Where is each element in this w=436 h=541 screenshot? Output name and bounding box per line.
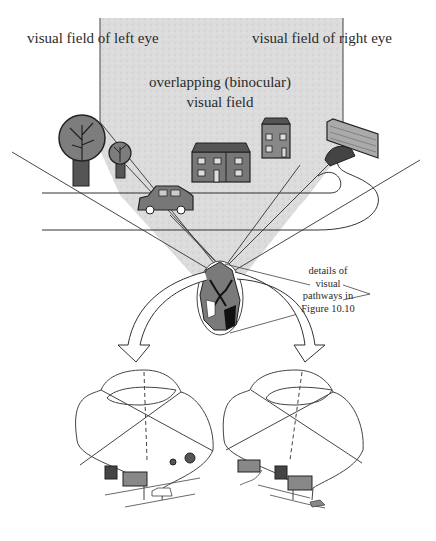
left-eye-field-label: visual field of left eye <box>27 30 159 47</box>
binocular-field-label: overlapping (binocular) visual field <box>130 72 310 112</box>
tall-house-icon <box>262 118 290 158</box>
terraced-house-icon <box>192 143 250 182</box>
right-eye-field-label: visual field of right eye <box>252 30 392 47</box>
curved-arrow-left-icon <box>118 272 207 362</box>
tree-large-icon <box>59 115 105 186</box>
details-note-label: details of visual pathways in Figure 10.… <box>298 265 358 315</box>
right-eye-image <box>238 460 325 508</box>
brick-wall-with-car-icon <box>325 119 378 166</box>
left-eye-image <box>105 453 200 507</box>
